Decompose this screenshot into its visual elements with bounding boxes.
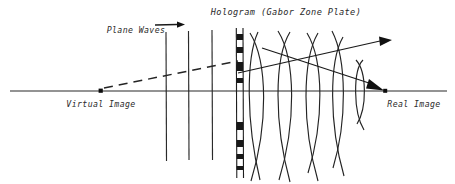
virtual-image-ray-group	[104, 61, 238, 88]
virtual-image-dashed-ray	[104, 61, 238, 88]
plane-wavefront-2	[189, 31, 190, 160]
zone-band	[237, 62, 244, 71]
zone-band	[237, 166, 244, 170]
plane-waves-label: Plane Waves	[107, 25, 166, 35]
converging-wavefront-arc	[356, 60, 364, 124]
diverging-wavefronts-group	[249, 32, 364, 182]
converging-wavefront-arc	[307, 33, 320, 173]
zone-band	[237, 122, 244, 130]
diagram-canvas: Hologram (Gabor Zone Plate) Plane Waves …	[0, 0, 455, 184]
plane-wavefront-3	[212, 30, 213, 160]
diverging-wavefront-arc	[333, 37, 344, 176]
hologram-title-label: Hologram (Gabor Zone Plate)	[210, 7, 362, 17]
zone-band	[237, 34, 244, 40]
virtual-image-point-marker	[99, 89, 103, 93]
diverging-ray-arrowhead-icon	[379, 37, 392, 47]
zone-band	[237, 140, 244, 147]
real-image-label: Real Image	[387, 99, 440, 109]
diverging-ray-up	[238, 37, 392, 74]
real-image-point-marker	[383, 89, 387, 93]
zone-band	[237, 78, 244, 83]
plane-wavefront-1	[166, 32, 167, 161]
zone-band	[237, 154, 244, 159]
zone-band	[237, 47, 244, 53]
gabor-zone-plate-group	[236, 28, 243, 178]
virtual-image-label: Virtual Image	[66, 99, 135, 109]
converging-wavefronts-group	[250, 31, 364, 181]
hologram-diagram-figure: Hologram (Gabor Zone Plate) Plane Waves …	[0, 0, 455, 184]
converging-ray-arrowhead-icon	[366, 79, 384, 91]
